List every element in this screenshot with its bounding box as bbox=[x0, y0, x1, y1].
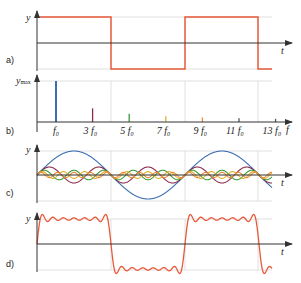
axes bbox=[37, 11, 292, 272]
spectrum-label: f0 bbox=[53, 125, 59, 137]
panel-b-label: b) bbox=[6, 126, 14, 136]
panel-a-y-label: y bbox=[25, 12, 31, 23]
spectrum-label: 3 f0 bbox=[83, 125, 97, 137]
labels: a) y t b) ymax f c) y t d) y t bbox=[6, 12, 290, 269]
spectrum-label: 5 f0 bbox=[120, 125, 133, 137]
spectrum-label: 9 f0 bbox=[193, 125, 206, 137]
panel-d-label: d) bbox=[6, 259, 14, 269]
panel-c-y-label: y bbox=[25, 144, 31, 155]
grid-lines bbox=[37, 17, 272, 270]
panel-c-label: c) bbox=[6, 188, 14, 198]
fourier-figure: a) y t b) ymax f c) y t d) y t f03 f05 f… bbox=[0, 0, 301, 283]
panel-d-t-label: t bbox=[281, 246, 284, 257]
curves bbox=[37, 17, 276, 273]
panel-c-t-label: t bbox=[281, 177, 284, 188]
panel-d-y-label: y bbox=[25, 213, 31, 224]
spectrum-label: 7 f0 bbox=[157, 125, 170, 137]
spectrum-label: 11 f0 bbox=[226, 125, 244, 137]
panel-b-y-label: ymax bbox=[15, 75, 31, 86]
spectrum-label: 13 f0 bbox=[263, 125, 281, 137]
spectrum-tick-labels: f03 f05 f07 f09 f011 f013 f0 bbox=[53, 125, 281, 137]
panel-b-f-label: f bbox=[286, 124, 290, 135]
panel-a-t-label: t bbox=[281, 45, 284, 56]
panel-a-label: a) bbox=[6, 55, 14, 65]
fourier-diagram: a) y t b) ymax f c) y t d) y t f03 f05 f… bbox=[0, 0, 301, 283]
